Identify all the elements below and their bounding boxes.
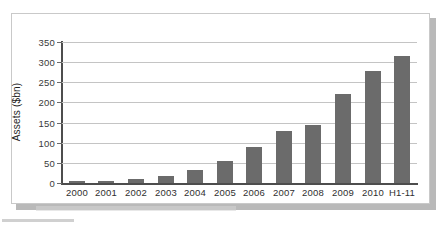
y-tick-label-300: 300 <box>39 57 55 68</box>
bar-2002[interactable] <box>128 179 144 183</box>
y-tick-label-50: 50 <box>44 158 55 169</box>
y-tick-mark-300 <box>57 62 62 63</box>
gridline-250 <box>62 82 417 83</box>
gridline-150 <box>62 123 417 124</box>
gridline-350 <box>62 42 417 43</box>
bar-2005[interactable] <box>217 161 233 183</box>
bar-2000[interactable] <box>69 181 85 183</box>
y-tick-mark-150 <box>57 123 62 124</box>
caption-rule-secondary <box>36 206 236 211</box>
gridline-50 <box>62 163 417 164</box>
y-axis-title: Assets ($bn) <box>11 83 22 142</box>
x-tick-label-2008: 2008 <box>302 187 324 198</box>
y-tick-label-150: 150 <box>39 118 55 129</box>
gridline-100 <box>62 143 417 144</box>
y-tick-label-0: 0 <box>50 178 55 189</box>
x-axis-line <box>61 183 418 185</box>
x-axis-tick-labels: 2000200120022003200420052006200720082009… <box>62 187 417 203</box>
x-tick-label-2010: 2010 <box>362 187 384 198</box>
y-tick-label-250: 250 <box>39 77 55 88</box>
bar-2010[interactable] <box>365 71 381 183</box>
bar-2008[interactable] <box>305 125 321 183</box>
bar-2006[interactable] <box>246 147 262 183</box>
bar-2009[interactable] <box>335 94 351 183</box>
x-tick-label-2000: 2000 <box>66 187 88 198</box>
bar-H1-11[interactable] <box>394 56 410 183</box>
gridline-200 <box>62 102 417 103</box>
y-tick-label-350: 350 <box>39 37 55 48</box>
x-tick-label-2007: 2007 <box>273 187 295 198</box>
bar-2001[interactable] <box>98 181 114 183</box>
plot-area: 050100150200250300350 <box>62 42 417 183</box>
y-tick-mark-50 <box>57 163 62 164</box>
bar-2003[interactable] <box>158 176 174 183</box>
x-tick-label-2006: 2006 <box>243 187 265 198</box>
y-tick-mark-350 <box>57 42 62 43</box>
bar-2007[interactable] <box>276 131 292 183</box>
x-tick-label-2002: 2002 <box>125 187 147 198</box>
y-tick-label-200: 200 <box>39 97 55 108</box>
x-tick-label-2004: 2004 <box>184 187 206 198</box>
gridline-300 <box>62 62 417 63</box>
y-tick-mark-100 <box>57 143 62 144</box>
x-tick-label-2005: 2005 <box>214 187 236 198</box>
y-tick-label-100: 100 <box>39 138 55 149</box>
y-tick-mark-0 <box>57 183 62 184</box>
y-tick-mark-200 <box>57 102 62 103</box>
x-tick-label-2009: 2009 <box>332 187 354 198</box>
x-tick-label-2003: 2003 <box>155 187 177 198</box>
x-tick-label-H1-11: H1-11 <box>389 187 415 198</box>
caption-rule <box>2 219 74 222</box>
bar-2004[interactable] <box>187 170 203 183</box>
y-tick-mark-250 <box>57 82 62 83</box>
x-tick-label-2001: 2001 <box>95 187 117 198</box>
